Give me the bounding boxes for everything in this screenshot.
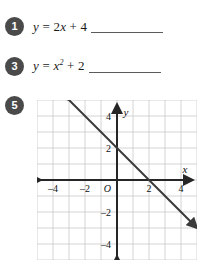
problem-number-badge: 5 — [5, 96, 24, 115]
origin-label: O — [104, 183, 111, 194]
equation-variable: x — [60, 19, 66, 34]
answer-blank-line[interactable] — [91, 32, 163, 33]
equation-exponent: 2 — [59, 58, 63, 67]
equation-equals: = — [42, 19, 50, 34]
answer-blank-line[interactable] — [89, 72, 161, 73]
equation-text: y = x2 + 2 — [33, 58, 85, 74]
x-tick-label: –2 — [79, 183, 90, 194]
problem-item-3: 3 y = x2 + 2 — [5, 57, 161, 76]
x-tick-label: 4 — [179, 183, 184, 194]
equation-text: y = 2x + 4 — [33, 19, 87, 35]
worksheet: 1 y = 2x + 4 3 y = x2 + 2 5 –4–22442–2–4… — [0, 0, 206, 265]
equation-tail: + 4 — [70, 19, 88, 34]
x-tick-label: 2 — [147, 183, 152, 194]
y-tick-label: 2 — [106, 143, 111, 154]
y-tick-label: –4 — [100, 239, 111, 250]
equation-lhs: y — [33, 19, 39, 34]
coordinate-graph: –4–22442–2–4Oxy — [37, 100, 197, 260]
equation-equals: = — [42, 59, 50, 74]
problem-number-badge: 3 — [5, 57, 24, 76]
problem-number-badge: 1 — [5, 17, 24, 36]
equation-lhs: y — [33, 59, 39, 74]
problem-item-1: 1 y = 2x + 4 — [5, 17, 163, 36]
problem-item-5: 5 — [5, 96, 24, 115]
y-axis-label: y — [123, 106, 129, 118]
y-tick-label: –2 — [100, 207, 111, 218]
y-tick-label: 4 — [106, 111, 111, 122]
graph-svg: –4–22442–2–4Oxy — [37, 100, 197, 260]
equation-tail: + 2 — [67, 59, 85, 74]
x-axis-label: x — [182, 163, 188, 175]
graph-axes — [41, 104, 193, 256]
x-tick-label: –4 — [47, 183, 58, 194]
